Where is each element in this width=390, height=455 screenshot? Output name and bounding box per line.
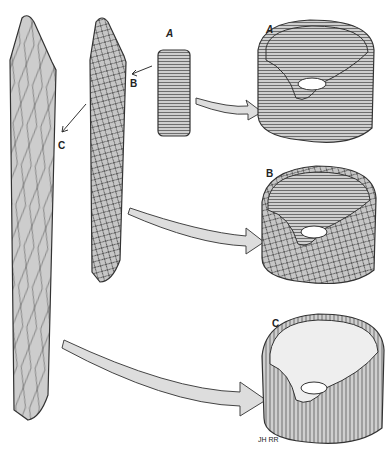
arrow-c <box>62 340 266 416</box>
label-small-a: A <box>166 28 173 39</box>
arrow-b <box>128 208 264 254</box>
label-large-a: A <box>266 24 273 35</box>
fiber-c <box>10 16 56 420</box>
label-large-c: C <box>272 318 279 329</box>
heart-b <box>262 166 376 284</box>
heart-a <box>258 20 374 142</box>
label-large-b: B <box>266 168 273 179</box>
heart-c <box>262 314 384 443</box>
artist-signature: JH RR <box>258 436 279 443</box>
fiber-b <box>90 18 126 282</box>
illustration <box>0 0 390 455</box>
label-small-c: C <box>58 140 65 151</box>
arrow-a <box>196 98 262 120</box>
label-small-b: B <box>130 78 137 89</box>
fiber-a <box>158 50 190 136</box>
